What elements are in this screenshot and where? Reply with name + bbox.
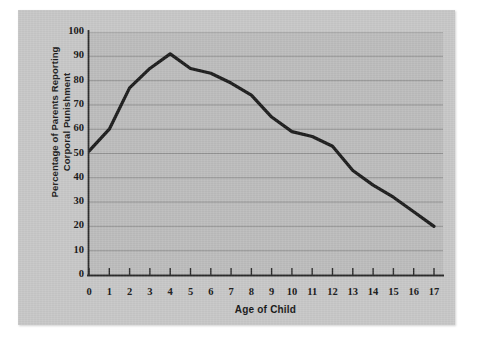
y-tick-label: 30 [58,195,84,206]
x-tick-label: 15 [382,286,404,297]
x-tick-label: 13 [342,286,364,297]
plot-area [88,32,443,275]
x-tick-label: 17 [423,286,445,297]
y-tick-label: 50 [58,147,84,158]
x-axis-title: Age of Child [88,304,443,315]
y-tick-label: 70 [58,98,84,109]
y-tick-label: 0 [58,268,84,279]
chart-plot [88,32,443,275]
x-tick-label: 5 [180,286,202,297]
x-tick-label: 10 [281,286,303,297]
x-tick-label: 8 [240,286,262,297]
y-tick-label: 20 [58,219,84,230]
x-tick-label: 12 [322,286,344,297]
figure-card: Percentage of Parents Reporting Corporal… [18,10,455,325]
x-tick-label: 4 [159,286,181,297]
y-tick-label: 90 [58,49,84,60]
x-tick-label: 9 [261,286,283,297]
x-tick-label: 7 [220,286,242,297]
x-tick-label: 0 [78,286,100,297]
gridlines [88,32,443,251]
y-tick-label: 10 [58,244,84,255]
y-tick-label: 100 [58,25,84,36]
y-tick-label: 80 [58,74,84,85]
data-series-line [89,54,434,227]
y-tick-label: 40 [58,171,84,182]
x-tick-label: 1 [98,286,120,297]
x-tick-label: 16 [403,286,425,297]
y-tick-label: 60 [58,122,84,133]
x-tick-label: 3 [139,286,161,297]
x-axis-tick-labels: 01234567891011121314151617 [88,286,443,302]
x-tick-label: 6 [200,286,222,297]
x-tick-label: 2 [119,286,141,297]
x-tick-label: 14 [362,286,384,297]
x-axis-tick-marks [89,268,434,275]
y-axis-tick-labels: 0102030405060708090100 [56,32,84,275]
x-tick-label: 11 [301,286,323,297]
